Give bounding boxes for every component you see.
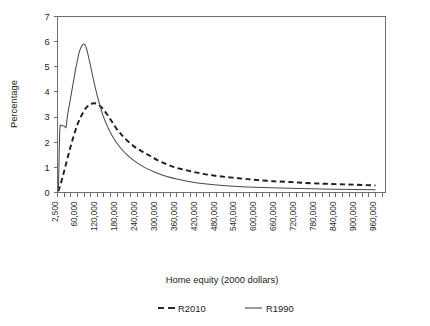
- x-tick-label: 840,000: [329, 201, 338, 231]
- x-tick-label: 480,000: [210, 201, 219, 231]
- y-tick-label: 5: [44, 62, 49, 72]
- y-tick-label: 7: [44, 12, 49, 22]
- x-axis-title: Home equity (2000 dollars): [166, 274, 279, 285]
- x-tick-label: 120,000: [90, 201, 99, 231]
- legend-label-r2010: R2010: [178, 303, 206, 314]
- chart-figure: 01234567 2,50060,000120,000180,000240,00…: [0, 0, 430, 326]
- y-tick-label: 3: [44, 112, 49, 122]
- x-tick-label: 2,500: [51, 201, 60, 222]
- y-tick-label: 4: [44, 87, 49, 97]
- y-tick-label: 6: [44, 37, 49, 47]
- y-tick-label: 2: [44, 138, 49, 148]
- x-tick-label: 60,000: [70, 201, 79, 226]
- x-tick-label: 360,000: [170, 201, 179, 231]
- x-tick-label: 780,000: [309, 201, 318, 231]
- y-axis-title: Percentage: [8, 80, 19, 128]
- x-tick-label: 960,000: [369, 201, 378, 231]
- x-tick-label: 420,000: [190, 201, 199, 231]
- legend-label-r1990: R1990: [266, 303, 294, 314]
- y-tick-label: 1: [44, 163, 49, 173]
- x-tick-label: 300,000: [150, 201, 159, 231]
- y-tick-label: 0: [44, 188, 49, 198]
- x-tick-label: 660,000: [269, 201, 278, 231]
- line-chart: 01234567 2,50060,000120,000180,000240,00…: [0, 0, 430, 326]
- x-tick-label: 900,000: [349, 201, 358, 231]
- x-tick-label: 180,000: [110, 201, 119, 231]
- x-tick-label: 600,000: [249, 201, 258, 231]
- x-tick-label: 240,000: [130, 201, 139, 231]
- x-tick-label: 540,000: [229, 201, 238, 231]
- x-tick-label: 720,000: [289, 201, 298, 231]
